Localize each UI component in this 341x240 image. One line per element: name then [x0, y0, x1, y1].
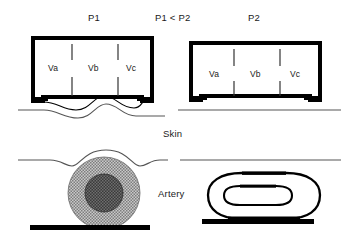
artery-open-round [68, 157, 140, 229]
cuff-low-compartment-va-label: Va [48, 63, 58, 73]
cuff-high-compartment-vb-label: Vb [250, 69, 261, 79]
diagram-canvas [0, 0, 341, 240]
cuff-high-compartment-va-label: Va [209, 69, 219, 79]
artery-compressed-lumen-flat-top [240, 185, 276, 188]
label-p1-lt-p2: P1 < P2 [155, 12, 190, 23]
blood-pressure-cuff-diagram: P1 P1 < P2 P2 Va Vb Vc Va Vb Vc Skin Art… [0, 0, 341, 240]
cuff-low-right-stub [137, 97, 152, 101]
label-p1: P1 [88, 12, 100, 23]
cuff-low-compartment-vc-label: Vc [126, 63, 136, 73]
artery-open-lumen [85, 174, 123, 212]
artery-compressed-lumen [224, 186, 292, 205]
cuff-high-right-stub [304, 96, 320, 100]
cuff-low-left-stub [33, 97, 48, 101]
left-skin-contour-outer [18, 104, 165, 118]
artery-compressed-flat [208, 172, 320, 220]
label-artery: Artery [158, 188, 185, 199]
cuff-low-compartment-vb-label: Vb [88, 63, 99, 73]
cuff-high-left-stub [191, 96, 207, 100]
artery-compressed-wall-flat-top [242, 172, 286, 175]
label-skin: Skin [163, 128, 182, 139]
cuff-high-compartment-vc-label: Vc [290, 69, 300, 79]
label-p2: P2 [248, 12, 260, 23]
artery-compressed-base [228, 217, 300, 220]
left-bone-bar [30, 225, 150, 230]
right-bone-bar [202, 219, 314, 224]
